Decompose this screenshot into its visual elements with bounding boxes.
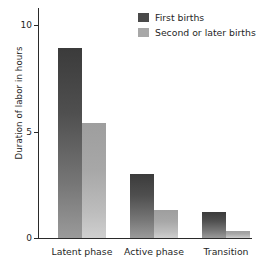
legend-swatch-icon-second-or-later-births xyxy=(138,28,149,37)
y-tick-mark xyxy=(34,25,39,26)
legend-label-second-or-later-births: Second or later births xyxy=(155,28,256,37)
y-axis-line xyxy=(38,8,39,239)
bar-chart: Duration of labor in hours 0510 Latent p… xyxy=(0,0,259,265)
y-tick-label: 0 xyxy=(26,233,32,243)
chart-legend: First births Second or later births xyxy=(138,11,256,41)
x-axis-label-transition: Transition xyxy=(188,246,259,257)
bar-active-phase-first-births xyxy=(130,174,154,238)
legend-item-second-or-later-births: Second or later births xyxy=(138,26,256,39)
legend-item-first-births: First births xyxy=(138,11,256,24)
x-axis-line xyxy=(38,238,252,239)
legend-swatch-icon-first-births xyxy=(138,13,149,22)
legend-label-first-births: First births xyxy=(155,13,204,22)
y-tick-mark xyxy=(34,238,39,239)
bar-transition-second-or-later-births xyxy=(226,231,250,238)
y-tick-label: 10 xyxy=(21,20,32,30)
x-axis-label-latent-phase: Latent phase xyxy=(44,246,120,257)
x-axis-label-active-phase: Active phase xyxy=(116,246,192,257)
y-axis-title: Duration of labor in hours xyxy=(14,18,24,188)
bar-latent-phase-second-or-later-births xyxy=(82,123,106,238)
y-tick-mark xyxy=(34,132,39,133)
bar-active-phase-second-or-later-births xyxy=(154,210,178,238)
y-tick-label: 5 xyxy=(26,127,32,137)
bar-transition-first-births xyxy=(202,212,226,238)
bar-latent-phase-first-births xyxy=(58,48,82,238)
plot-area: 0510 Latent phaseActive phaseTransition xyxy=(38,8,252,239)
